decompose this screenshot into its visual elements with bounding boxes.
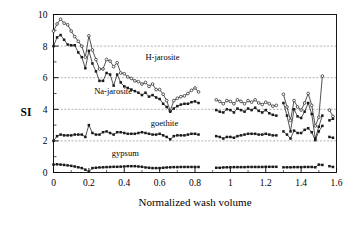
series-goethite — [52, 124, 334, 142]
data-point — [332, 166, 335, 169]
data-point — [56, 163, 59, 166]
data-point — [155, 167, 158, 170]
y-tick-label-10: 10 — [38, 10, 48, 20]
data-point — [328, 119, 331, 122]
data-point — [190, 133, 193, 136]
data-point — [272, 166, 275, 169]
data-point — [254, 106, 257, 109]
data-point — [264, 101, 267, 104]
data-point — [286, 114, 289, 117]
data-point — [268, 133, 271, 136]
data-point — [59, 18, 62, 21]
data-point — [81, 167, 84, 170]
x-tick-label-1.2: 1.2 — [260, 178, 272, 188]
x-tick-label-0.6: 0.6 — [154, 178, 166, 188]
data-point — [261, 111, 264, 114]
data-point — [63, 164, 66, 167]
data-point — [247, 107, 250, 110]
data-point — [123, 72, 126, 75]
y-tick-label-6: 6 — [43, 73, 48, 83]
data-point — [268, 102, 271, 105]
data-point — [144, 132, 147, 135]
data-point — [141, 83, 144, 86]
data-point — [296, 115, 299, 118]
data-point — [190, 166, 193, 169]
data-point — [158, 167, 161, 170]
data-point — [165, 136, 168, 139]
data-point — [215, 98, 218, 101]
data-point — [286, 166, 289, 169]
data-point — [332, 136, 335, 139]
data-point — [261, 133, 264, 136]
data-point — [169, 110, 172, 113]
x-tick-label-0: 0 — [51, 178, 56, 188]
data-point — [296, 106, 299, 109]
data-point — [314, 125, 317, 128]
data-point — [102, 68, 105, 71]
data-point — [137, 165, 140, 168]
data-point — [240, 166, 243, 169]
data-point — [197, 102, 200, 105]
data-point — [102, 131, 105, 134]
data-point — [169, 166, 172, 169]
data-point — [268, 166, 271, 169]
data-point — [318, 125, 321, 128]
data-point — [293, 99, 296, 102]
data-point — [77, 40, 80, 43]
data-point — [300, 109, 303, 112]
data-point — [116, 166, 119, 169]
data-point — [275, 166, 278, 169]
data-point — [84, 168, 87, 171]
series-h-jarosite — [52, 18, 334, 127]
data-point — [105, 166, 108, 169]
data-point — [226, 166, 229, 169]
x-tick-label-1.6: 1.6 — [331, 178, 343, 188]
chart-figure: 024681000.20.40.60.811.21.41.6SINormaliz… — [0, 0, 361, 227]
data-point — [222, 166, 225, 169]
data-point — [105, 130, 108, 133]
data-point — [77, 166, 80, 169]
data-point — [250, 101, 253, 104]
data-point — [240, 109, 243, 112]
data-point — [141, 166, 144, 169]
data-point — [88, 124, 91, 127]
data-point — [88, 170, 91, 173]
data-point — [190, 89, 193, 92]
data-point — [81, 56, 84, 59]
data-point — [300, 166, 303, 169]
data-point — [310, 104, 313, 107]
data-point — [197, 133, 200, 136]
data-point — [187, 92, 190, 95]
data-point — [197, 166, 200, 169]
data-point — [98, 166, 101, 169]
data-point — [233, 111, 236, 114]
data-point — [158, 88, 161, 91]
data-point — [141, 94, 144, 97]
data-point — [105, 58, 108, 61]
data-point — [98, 133, 101, 136]
data-point — [236, 98, 239, 101]
data-point — [137, 80, 140, 83]
data-point — [183, 134, 186, 137]
data-point — [289, 166, 292, 169]
data-point — [134, 165, 137, 168]
data-point — [226, 108, 229, 111]
data-point — [272, 114, 275, 117]
data-point — [84, 56, 87, 59]
data-point — [173, 107, 176, 110]
data-point — [271, 105, 274, 108]
data-point — [73, 133, 76, 136]
data-point — [95, 167, 98, 170]
data-point — [130, 165, 133, 168]
data-point — [296, 166, 299, 169]
data-point — [162, 134, 165, 137]
data-point — [310, 131, 313, 134]
data-point — [52, 163, 55, 166]
y-tick-label-4: 4 — [43, 105, 48, 115]
data-point — [127, 165, 130, 168]
data-point — [66, 134, 69, 137]
data-point — [243, 133, 246, 136]
data-point — [70, 165, 73, 168]
data-point — [91, 132, 94, 135]
y-tick-label-8: 8 — [43, 42, 48, 52]
